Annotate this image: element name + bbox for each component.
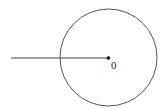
circle-diagram: 0: [0, 0, 163, 110]
center-label: 0: [111, 59, 117, 71]
center-point: [107, 56, 111, 60]
